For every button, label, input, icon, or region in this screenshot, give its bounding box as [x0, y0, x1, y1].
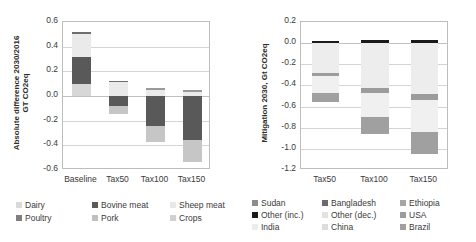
legend-swatch-icon: [252, 224, 258, 230]
bar-segment: [411, 132, 439, 154]
legend-label: Poultry: [25, 213, 51, 223]
legend-item: Ethiopia: [400, 198, 462, 208]
legend-label: India: [261, 222, 279, 232]
legend-item: China: [322, 222, 400, 232]
bar-segment: [411, 43, 439, 94]
legend-label: Dairy: [25, 200, 45, 210]
legend-item: USA: [400, 210, 462, 220]
right-legend: SudanBangladeshEthiopiaOther (inc.)Other…: [252, 198, 474, 232]
left-legend: DairyBovine meatSheep meatPoultryPorkCro…: [16, 200, 230, 223]
legend-swatch-icon: [322, 200, 328, 206]
legend-item: India: [252, 222, 322, 232]
legend-item: Pork: [92, 213, 170, 223]
legend-label: Crops: [179, 213, 202, 223]
left-chart-panel: Absolute difference 2030/2016 GT CO2eq 0…: [0, 0, 238, 242]
y-tick-label: -1.0: [260, 142, 296, 152]
bar-tax50: [109, 22, 129, 168]
legend-item: Poultry: [16, 213, 92, 223]
legend-item: Sudan: [252, 198, 322, 208]
y-tick-label: -0.8: [260, 121, 296, 131]
right-chart-panel: Mitigation 2030, Gt CO2eq 0.20.0-0.2-0.4…: [238, 0, 476, 242]
legend-label: Pork: [101, 213, 118, 223]
bar-segment: [312, 93, 340, 103]
legend-swatch-icon: [92, 202, 98, 208]
y-tick-label: -0.2: [260, 57, 296, 67]
bar-tax150: [183, 22, 203, 168]
legend-label: Bovine meat: [101, 200, 148, 210]
legend-item: Other (inc.): [252, 210, 322, 220]
legend-item: Dairy: [16, 200, 92, 210]
bar-tax100: [361, 22, 389, 168]
legend-swatch-icon: [400, 224, 406, 230]
bar-segment: [183, 96, 203, 140]
bar-segment: [183, 140, 203, 162]
legend-item: Other (dec.): [322, 210, 400, 220]
y-tick-label: -0.2: [22, 114, 58, 124]
bar-segment: [146, 126, 166, 142]
legend-label: Other (dec.): [331, 210, 376, 220]
bar-segment: [361, 93, 389, 117]
bar-tax100: [146, 22, 166, 168]
legend-item: Bangladesh: [322, 198, 400, 208]
x-tick-label: Tax150: [173, 174, 210, 184]
x-tick-label: Tax50: [300, 174, 349, 184]
bar-segment: [109, 106, 129, 113]
bar-baseline: [72, 22, 92, 168]
y-tick-label: 0.2: [260, 15, 296, 25]
legend-swatch-icon: [170, 202, 176, 208]
legend-label: China: [331, 222, 353, 232]
bar-segment: [72, 84, 92, 96]
legend-swatch-icon: [92, 215, 98, 221]
legend-swatch-icon: [400, 212, 406, 218]
bar-segment: [361, 43, 389, 88]
bar-segment: [312, 43, 340, 73]
legend-swatch-icon: [16, 202, 22, 208]
y-tick-label: 0.6: [22, 15, 58, 25]
legend-label: USA: [409, 210, 426, 220]
legend-swatch-icon: [400, 200, 406, 206]
y-tick-label: 0.0: [260, 36, 296, 46]
legend-label: Ethiopia: [409, 198, 440, 208]
y-tick-label: -0.6: [260, 100, 296, 110]
y-tick-label: -1.2: [260, 163, 296, 173]
y-tick-label: 0.2: [22, 64, 58, 74]
y-tick-label: -0.4: [260, 78, 296, 88]
bar-segment: [312, 76, 340, 92]
x-tick-label: Tax100: [136, 174, 173, 184]
bar-tax150: [411, 22, 439, 168]
legend-item: Bovine meat: [92, 200, 170, 210]
legend-item: Sheep meat: [170, 200, 230, 210]
y-tick-label: -0.4: [22, 138, 58, 148]
x-tick-label: Tax100: [349, 174, 398, 184]
legend-label: Bangladesh: [331, 198, 376, 208]
bar-tax50: [312, 22, 340, 168]
legend-swatch-icon: [170, 215, 176, 221]
legend-label: Sheep meat: [179, 200, 225, 210]
bar-segment: [109, 96, 129, 106]
legend-item: Crops: [170, 213, 230, 223]
legend-item: Brazil: [400, 222, 462, 232]
x-tick-label: Baseline: [62, 174, 99, 184]
legend-label: Other (inc.): [261, 210, 304, 220]
legend-label: Sudan: [261, 198, 286, 208]
left-y-axis-title-line1: Absolute difference 2030/2016: [12, 36, 21, 151]
y-tick-label: 0.0: [22, 89, 58, 99]
figure-container: Absolute difference 2030/2016 GT CO2eq 0…: [0, 0, 476, 242]
y-tick-label: 0.4: [22, 40, 58, 50]
left-plot-area: [62, 21, 210, 169]
bar-segment: [361, 117, 389, 134]
right-plot-area: [300, 21, 448, 169]
legend-label: Brazil: [409, 222, 430, 232]
bar-segment: [72, 34, 92, 56]
legend-swatch-icon: [252, 212, 258, 218]
y-tick-label: -0.6: [22, 163, 58, 173]
bar-segment: [109, 82, 129, 96]
legend-swatch-icon: [16, 215, 22, 221]
x-tick-label: Tax150: [399, 174, 448, 184]
legend-swatch-icon: [322, 224, 328, 230]
legend-swatch-icon: [252, 200, 258, 206]
x-tick-label: Tax50: [99, 174, 136, 184]
bar-segment: [72, 57, 92, 85]
bar-segment: [146, 96, 166, 126]
bar-segment: [411, 100, 439, 132]
